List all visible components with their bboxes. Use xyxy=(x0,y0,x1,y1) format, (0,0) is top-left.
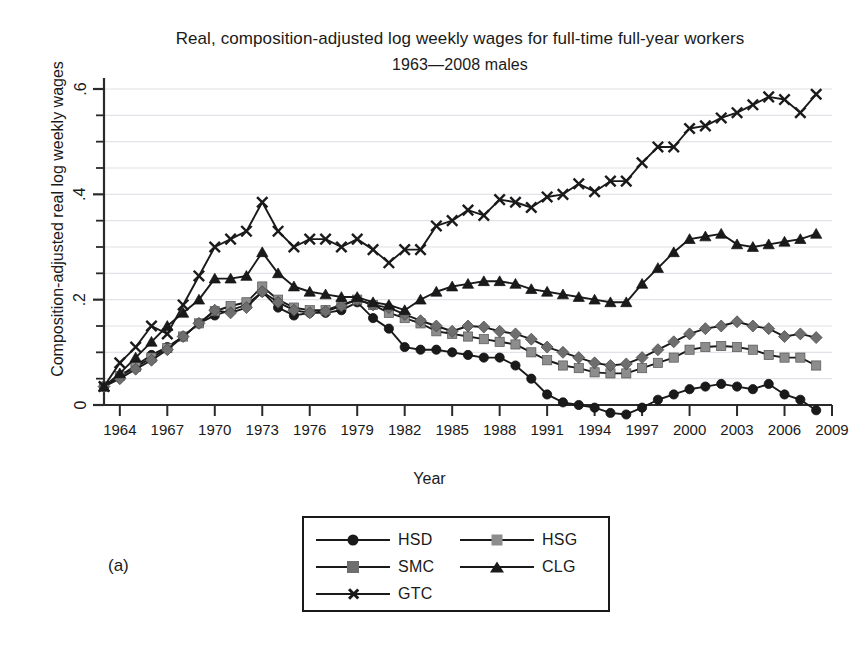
svg-text:2000: 2000 xyxy=(673,421,706,438)
panel-label: (a) xyxy=(108,556,129,576)
svg-text:0: 0 xyxy=(72,400,89,409)
x-axis-label: Year xyxy=(0,470,859,488)
legend-label: GTC xyxy=(398,585,433,603)
legend-label: HSG xyxy=(542,531,578,549)
legend-key-x-icon xyxy=(314,584,392,604)
svg-text:.6: .6 xyxy=(72,82,89,95)
legend-item-gtc[interactable]: GTC xyxy=(314,584,458,604)
legend-key-diamond-icon xyxy=(314,557,392,577)
svg-text:1997: 1997 xyxy=(625,421,658,438)
svg-text:1979: 1979 xyxy=(341,421,374,438)
legend-key-triangle-icon xyxy=(458,557,536,577)
legend-label: SMC xyxy=(398,558,434,576)
series-hsg xyxy=(99,282,820,391)
legend-label: HSD xyxy=(398,531,433,549)
svg-text:.4: .4 xyxy=(72,188,89,201)
svg-text:1988: 1988 xyxy=(483,421,516,438)
svg-text:.2: .2 xyxy=(72,293,89,306)
series-hsd xyxy=(99,287,820,419)
svg-text:1994: 1994 xyxy=(578,421,611,438)
legend-row: HSDHSG xyxy=(314,526,602,553)
legend-row: GTC xyxy=(314,580,602,607)
svg-text:2003: 2003 xyxy=(720,421,753,438)
legend-key-circle-icon xyxy=(314,530,392,550)
svg-text:1967: 1967 xyxy=(151,421,184,438)
svg-text:1964: 1964 xyxy=(103,421,136,438)
legend-item-clg[interactable]: CLG xyxy=(458,557,602,577)
svg-text:1970: 1970 xyxy=(198,421,231,438)
legend-key-square-icon xyxy=(458,530,536,550)
legend-row: SMCCLG xyxy=(314,553,602,580)
y-axis-ticks: 0.2.4.6 xyxy=(72,82,105,409)
x-axis-ticks: 1964196719701973197619791982198519881991… xyxy=(103,405,849,438)
svg-text:1982: 1982 xyxy=(388,421,421,438)
svg-text:1973: 1973 xyxy=(246,421,279,438)
legend-item-hsd[interactable]: HSD xyxy=(314,530,458,550)
series-clg xyxy=(98,228,821,391)
legend-grid: HSDHSGSMCCLGGTC xyxy=(314,526,602,607)
legend-item-smc[interactable]: SMC xyxy=(314,557,458,577)
legend: HSDHSGSMCCLGGTC xyxy=(302,516,610,612)
data-series-group xyxy=(98,89,822,419)
legend-item-hsg[interactable]: HSG xyxy=(458,530,602,550)
svg-text:1976: 1976 xyxy=(293,421,326,438)
series-smc xyxy=(98,286,822,393)
plot-area: 0.2.4.6 19641967197019731976197919821985… xyxy=(0,0,859,460)
figure-root: Real, composition-adjusted log weekly wa… xyxy=(0,0,859,652)
legend-label: CLG xyxy=(542,558,576,576)
svg-text:1985: 1985 xyxy=(435,421,468,438)
svg-text:2009: 2009 xyxy=(815,421,848,438)
svg-text:1991: 1991 xyxy=(530,421,563,438)
svg-text:2006: 2006 xyxy=(768,421,801,438)
